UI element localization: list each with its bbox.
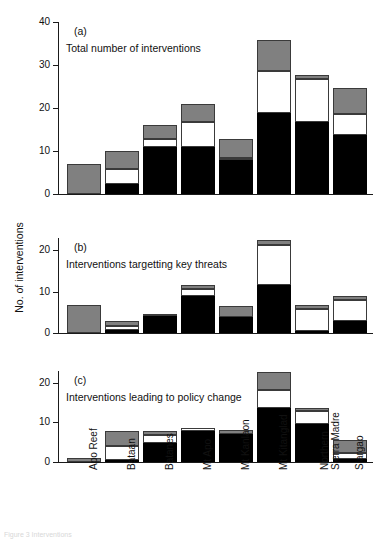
x-label-line: Sierra Madre [330, 412, 341, 470]
figure-container: No. of interventions 010203040(a)Total n… [0, 0, 383, 545]
bar-segment-white [257, 390, 291, 408]
x-label-siargao: Siargao [354, 436, 365, 470]
x-label-line: Northern [319, 412, 330, 470]
x-label-line: Bataan [126, 438, 137, 470]
x-label-apo-reef: Apo Reef [88, 428, 99, 470]
x-label-line: Siargao [354, 436, 365, 470]
x-label-line: Apo Reef [88, 428, 99, 470]
bar-segment-gray [295, 408, 329, 412]
y-tick-c-10 [53, 422, 58, 423]
y-tick-c-0 [53, 462, 58, 463]
x-label-line: Mt Apo [202, 439, 213, 470]
y-axis-line-c [58, 371, 59, 463]
y-tick-label-c-20: 20 [12, 378, 50, 388]
x-label-batanes: Batanes [164, 433, 175, 470]
y-tick-label-c-10: 10 [12, 417, 50, 427]
x-label-line: Batanes [164, 433, 175, 470]
y-tick-c-20 [53, 383, 58, 384]
y-tick-label-c-0: 0 [12, 457, 50, 467]
figure-caption: Figure 3 Interventions [4, 531, 379, 539]
x-label-mt-apo: Mt Apo [202, 439, 213, 470]
x-label-mt-kanlaon: Mt Kanlaon [240, 419, 251, 470]
x-label-line: Mt Kanlaon [240, 419, 251, 470]
x-label-bataan: Bataan [126, 438, 137, 470]
x-label-northern-sierra-madre: NorthernSierra Madre [319, 412, 341, 470]
bar-segment-gray [257, 372, 291, 390]
panel-description-c: Interventions leading to policy change [66, 392, 242, 403]
panel-letter-c: (c) [74, 375, 86, 386]
x-label-line: Mt Kitanglad [278, 414, 289, 470]
bar-segment-white [181, 428, 215, 432]
x-label-mt-kitanglad: Mt Kitanglad [278, 414, 289, 470]
